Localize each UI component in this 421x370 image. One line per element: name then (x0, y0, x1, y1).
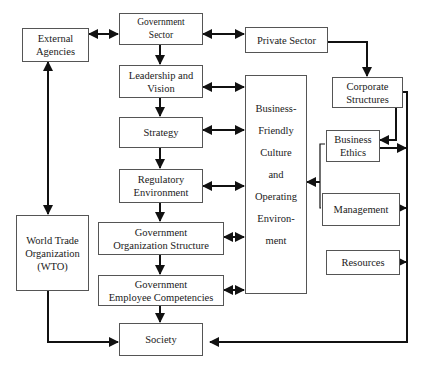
node-label: Organization Structure (113, 239, 209, 252)
node-society: Society (119, 323, 203, 356)
node-label: Government (135, 226, 188, 239)
node-label: (WTO) (37, 260, 68, 273)
node-label: Government (137, 16, 185, 29)
node-government-sector: Government Sector (119, 13, 203, 45)
node-management: Management (322, 193, 400, 226)
node-label: Leadership and (129, 69, 193, 82)
edge-corporate-ethics (380, 107, 396, 140)
node-label: Agencies (36, 45, 75, 58)
node-private-sector: Private Sector (245, 27, 328, 53)
node-business-friendly-environment: Business- Friendly Culture and Operating… (245, 75, 307, 294)
node-label: Strategy (144, 126, 179, 139)
node-label: Employee Competencies (109, 291, 214, 304)
node-external-agencies: External Agencies (22, 28, 89, 62)
node-label: Vision (147, 82, 174, 95)
node-label: Operating (255, 191, 297, 203)
node-label: and (268, 169, 283, 181)
node-leadership-vision: Leadership and Vision (119, 65, 203, 98)
node-label: Private Sector (257, 34, 316, 47)
edge-private-corporate (328, 42, 367, 76)
node-gov-employee-competencies: Government Employee Competencies (98, 275, 224, 306)
node-corporate-structures: Corporate Structures (332, 77, 403, 108)
node-label: Sector (149, 29, 173, 42)
node-label: Regulatory (138, 173, 185, 186)
node-label: World Trade (26, 234, 79, 247)
node-label: ment (266, 235, 287, 247)
node-business-ethics: Business Ethics (326, 130, 380, 162)
node-label: Corporate (347, 80, 389, 93)
node-label: Business- (256, 103, 297, 115)
node-label: Friendly (258, 125, 294, 137)
node-wto: World Trade Organization (WTO) (16, 215, 89, 291)
node-label: Business (334, 133, 371, 146)
node-label: Environ- (257, 213, 294, 225)
node-strategy: Strategy (119, 117, 203, 148)
node-resources: Resources (326, 250, 400, 275)
node-label: Resources (341, 256, 384, 269)
node-label: Government (135, 278, 188, 291)
node-label: Society (145, 333, 177, 346)
node-regulatory-environment: Regulatory Environment (119, 169, 203, 203)
node-label: Ethics (340, 146, 366, 159)
node-gov-org-structure: Government Organization Structure (98, 222, 224, 255)
node-label: Culture (260, 147, 292, 159)
node-label: External (38, 32, 74, 45)
node-label: Organization (25, 247, 80, 260)
node-label: Structures (346, 93, 389, 106)
node-label: Management (334, 203, 389, 216)
node-label: Environment (134, 186, 189, 199)
